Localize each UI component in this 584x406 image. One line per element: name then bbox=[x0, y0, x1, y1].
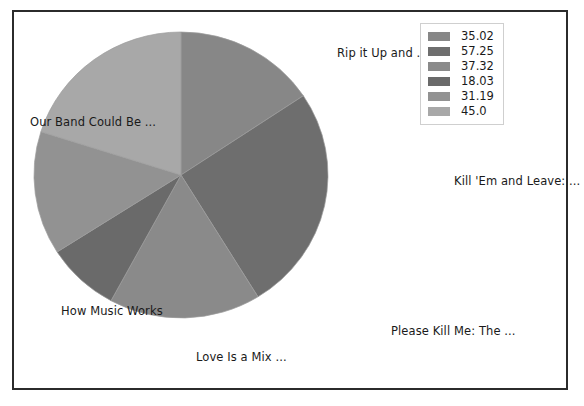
legend-value-label: 57.25 bbox=[461, 46, 494, 58]
legend-value-label: 18.03 bbox=[461, 76, 494, 88]
legend-value-label: 35.02 bbox=[461, 31, 494, 43]
chart-legend: 35.0257.2537.3218.0331.1945.0 bbox=[420, 23, 504, 125]
pie-label-love-is-a-mix: Love Is a Mix ... bbox=[196, 352, 287, 364]
legend-swatch bbox=[428, 47, 450, 56]
pie-slices-group bbox=[34, 32, 328, 318]
pie-label-please-kill-me: Please Kill Me: The ... bbox=[391, 326, 516, 338]
pie-label-kill-em-and-leave: Kill 'Em and Leave: ... bbox=[454, 176, 580, 188]
legend-value-label: 45.0 bbox=[461, 106, 487, 118]
pie-chart-plot-area: Rip it Up and ... Kill 'Em and Leave: ..… bbox=[14, 12, 566, 388]
legend-item[interactable]: 45.0 bbox=[428, 104, 494, 119]
legend-swatch bbox=[428, 107, 450, 116]
legend-value-label: 31.19 bbox=[461, 91, 494, 103]
legend-item[interactable]: 35.02 bbox=[428, 29, 494, 44]
chart-frame: Rip it Up and ... Kill 'Em and Leave: ..… bbox=[12, 10, 568, 390]
legend-item[interactable]: 18.03 bbox=[428, 74, 494, 89]
legend-item[interactable]: 37.32 bbox=[428, 59, 494, 74]
pie-label-how-music-works: How Music Works bbox=[61, 306, 163, 318]
legend-item[interactable]: 31.19 bbox=[428, 89, 494, 104]
legend-swatch bbox=[428, 77, 450, 86]
pie-label-rip-it-up: Rip it Up and ... bbox=[337, 48, 428, 60]
legend-swatch bbox=[428, 32, 450, 41]
pie-label-our-band-could-be: Our Band Could Be ... bbox=[30, 117, 156, 129]
legend-swatch bbox=[428, 62, 450, 71]
legend-item[interactable]: 57.25 bbox=[428, 44, 494, 59]
legend-swatch bbox=[428, 92, 450, 101]
legend-value-label: 37.32 bbox=[461, 61, 494, 73]
